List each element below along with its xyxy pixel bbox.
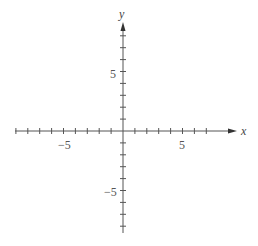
y-arrow-icon	[121, 22, 126, 31]
y-tick-label-pos5: 5	[110, 67, 116, 81]
y-axis-label: y	[118, 7, 125, 21]
coordinate-plane: x y −5 5 5 −5	[0, 0, 258, 246]
x-tick-label-neg5: −5	[58, 138, 71, 152]
y-tick-label-neg5: −5	[104, 185, 117, 199]
x-arrow-icon	[228, 129, 237, 134]
axes-svg: x y −5 5 5 −5	[0, 0, 258, 246]
x-axis-label: x	[240, 124, 247, 138]
x-tick-label-pos5: 5	[179, 138, 185, 152]
